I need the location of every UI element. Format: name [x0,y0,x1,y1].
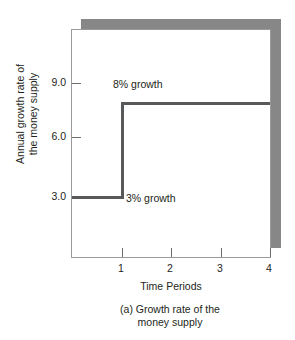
figure-growth-rate-money-supply: 8% growth 3% growth 9.0 6.0 3.0 1 2 3 4 … [0,0,295,340]
x-tick-2 [171,248,172,257]
step-segment-8-percent [121,102,270,105]
x-tick-4 [270,248,271,257]
step-segment-3-percent [72,196,124,199]
x-axis-tick-labels: 1 2 3 4 [0,262,295,278]
x-axis-title: Time Periods [71,280,271,292]
y-tick-6 [72,137,81,138]
figure-caption: (a) Growth rate of the money supply [55,303,285,329]
plot-area [71,29,271,258]
x-tick-label-1: 1 [109,262,133,274]
figure-caption-line-1: (a) Growth rate of the [55,303,285,316]
x-tick-3 [221,248,222,257]
y-axis-title-line-2: the money supply [27,34,40,194]
figure-caption-line-2: money supply [55,316,285,329]
x-tick-label-3: 3 [208,262,232,274]
annotation-8-percent-growth: 8% growth [113,78,163,90]
x-tick-label-2: 2 [158,262,182,274]
y-tick-9 [72,83,81,84]
x-tick-label-4: 4 [257,262,281,274]
step-segment-jump [121,102,124,199]
x-tick-1 [122,248,123,257]
y-axis-title-line-1: Annual growth rate of [14,34,27,194]
annotation-3-percent-growth: 3% growth [126,192,176,204]
y-axis-title: Annual growth rate of the money supply [14,34,42,194]
